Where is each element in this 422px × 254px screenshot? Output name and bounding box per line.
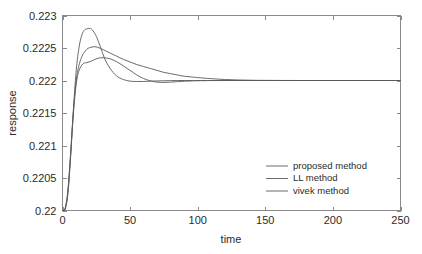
y-tick-label: 0.2205 (23, 172, 57, 184)
legend-label-2: vivek method (293, 185, 349, 196)
x-axis-tick-labels: 050100150200250 (59, 214, 409, 226)
y-axis-title: response (6, 90, 18, 135)
y-axis-tick-labels: 0.220.22050.2210.22150.2220.22250.223 (23, 10, 57, 217)
x-tick-label: 0 (59, 214, 65, 226)
series-line-1 (63, 28, 401, 210)
x-axis-ticks (64, 16, 402, 211)
chart-legend: proposed methodLL methodvivek method (266, 160, 367, 196)
x-tick-label: 200 (324, 214, 342, 226)
data-series-group (63, 28, 401, 210)
legend-label-1: LL method (293, 172, 338, 183)
series-line-2 (63, 58, 401, 211)
plot-axes-frame (63, 16, 401, 211)
y-axis-ticks (63, 17, 401, 212)
y-tick-label: 0.222 (29, 75, 57, 87)
series-line-0 (63, 47, 401, 211)
x-tick-label: 150 (256, 214, 274, 226)
figure-container: 050100150200250 0.220.22050.2210.22150.2… (0, 0, 422, 254)
x-tick-label: 250 (391, 214, 409, 226)
chart-canvas: 050100150200250 0.220.22050.2210.22150.2… (0, 0, 422, 254)
y-tick-label: 0.221 (29, 140, 57, 152)
x-tick-label: 50 (124, 214, 136, 226)
x-axis-title: time (221, 233, 242, 245)
y-tick-label: 0.2215 (23, 107, 57, 119)
y-tick-label: 0.2225 (23, 42, 57, 54)
x-tick-label: 100 (189, 214, 207, 226)
legend-label-0: proposed method (293, 160, 367, 171)
y-tick-label: 0.223 (29, 10, 57, 22)
y-tick-label: 0.22 (35, 205, 56, 217)
